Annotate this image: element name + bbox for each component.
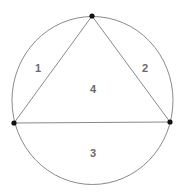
vertex-left [11, 120, 16, 125]
vertex-top [89, 13, 94, 18]
region-label-4: 4 [90, 83, 97, 95]
vertex-right [167, 119, 172, 124]
circle [12, 17, 173, 185]
region-label-1: 1 [35, 62, 41, 74]
region-label-3: 3 [90, 147, 96, 159]
inscribed-triangle-diagram: 1 2 3 4 [0, 0, 184, 194]
region-label-2: 2 [142, 62, 148, 74]
